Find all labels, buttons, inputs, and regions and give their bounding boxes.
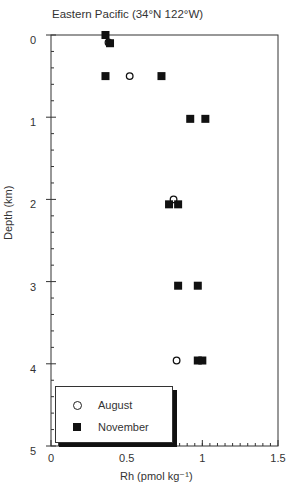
- august-point: [173, 357, 180, 364]
- november-point: [101, 72, 109, 80]
- legend-item-august: August: [56, 397, 132, 413]
- filled-square-icon: [73, 423, 81, 431]
- november-point: [157, 72, 165, 80]
- svg-text:1.5: 1.5: [270, 452, 285, 464]
- november-point: [186, 115, 194, 123]
- svg-text:3: 3: [30, 281, 36, 293]
- legend-label: August: [98, 399, 132, 411]
- svg-text:5: 5: [30, 445, 36, 457]
- x-axis: 00.511.5: [48, 440, 286, 464]
- november-point: [201, 115, 209, 123]
- svg-text:1: 1: [199, 452, 205, 464]
- november-point: [198, 357, 206, 365]
- legend: August November: [55, 386, 173, 443]
- november-point: [106, 39, 114, 47]
- svg-text:2: 2: [30, 198, 36, 210]
- data-points: [101, 31, 209, 365]
- svg-text:0: 0: [48, 452, 54, 464]
- legend-label: November: [98, 421, 149, 433]
- november-point: [165, 200, 173, 208]
- november-point: [101, 31, 109, 39]
- y-axis-label: Depth (km): [2, 186, 14, 240]
- plot-frame: [51, 35, 278, 446]
- august-point: [126, 73, 133, 80]
- legend-item-november: November: [56, 419, 149, 435]
- november-point: [174, 200, 182, 208]
- open-circle-icon: [73, 401, 82, 410]
- november-point: [194, 282, 202, 290]
- svg-text:0.5: 0.5: [119, 452, 134, 464]
- chart-title: Eastern Pacific (34°N 122°W): [52, 8, 203, 20]
- svg-text:4: 4: [30, 363, 36, 375]
- svg-text:0: 0: [30, 34, 36, 46]
- x-axis-label: Rh (pmol kg⁻¹): [120, 470, 193, 483]
- y-axis: 012345: [30, 34, 56, 457]
- svg-text:1: 1: [30, 116, 36, 128]
- november-point: [174, 282, 182, 290]
